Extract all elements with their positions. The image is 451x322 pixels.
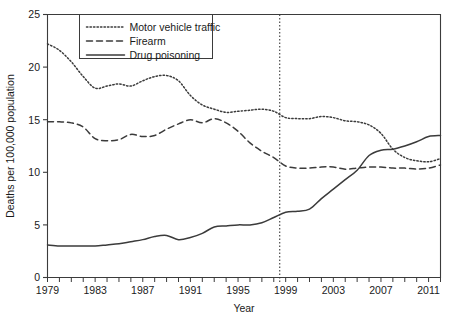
- x-axis-tick-labels: 197919831987199119951999200320072011: [36, 284, 440, 296]
- x-tick-label: 1995: [226, 284, 250, 296]
- x-tick-label: 1983: [83, 284, 107, 296]
- x-tick-label: 1979: [36, 284, 60, 296]
- y-axis-title: Deaths per 100,000 population: [4, 74, 16, 218]
- legend-label-drug-poisoning: Drug poisoning: [130, 49, 201, 61]
- legend: Motor vehicle trafficFirearmDrug poisoni…: [80, 15, 221, 61]
- y-tick-label: 10: [28, 166, 40, 178]
- y-tick-label: 20: [28, 61, 40, 73]
- x-tick-label: 1987: [131, 284, 155, 296]
- x-tick-label: 2007: [369, 284, 393, 296]
- x-tick-label: 2003: [322, 284, 346, 296]
- legend-label-firearm: Firearm: [130, 35, 166, 47]
- chart-figure: 0510152025 19791983198719911995199920032…: [0, 0, 451, 322]
- x-axis-title: Year: [233, 302, 255, 314]
- x-tick-label: 2011: [417, 284, 440, 296]
- y-tick-label: 5: [34, 219, 40, 231]
- y-tick-label: 15: [28, 114, 40, 126]
- line-chart-svg: 0510152025 19791983198719911995199920032…: [0, 0, 451, 322]
- x-tick-label: 1991: [179, 284, 203, 296]
- chart-background: [0, 0, 451, 322]
- legend-label-motor-vehicle-traffic: Motor vehicle traffic: [130, 21, 221, 33]
- x-tick-label: 1999: [274, 284, 298, 296]
- y-tick-label: 25: [28, 8, 40, 20]
- y-tick-label: 0: [34, 271, 40, 283]
